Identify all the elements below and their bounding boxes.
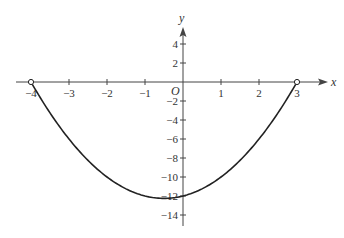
y-tick-label: −12 (161, 190, 178, 202)
x-tick-label: 1 (218, 87, 224, 99)
x-tick-label: 3 (294, 87, 300, 99)
x-tick-label: 2 (256, 87, 262, 99)
open-circle-icon (28, 79, 33, 84)
y-tick-label: −10 (161, 171, 179, 183)
y-tick-label: 4 (173, 38, 179, 50)
y-tick-label: −4 (166, 114, 178, 126)
x-tick-label: −2 (101, 87, 113, 99)
x-tick-label: −1 (139, 87, 151, 99)
y-tick-label: −8 (166, 152, 178, 164)
y-axis-label: y (178, 11, 185, 25)
y-tick-label: −6 (166, 133, 178, 145)
ticks: −4−3−2−112342−2−4−6−8−10−12−14 (25, 38, 300, 221)
origin-label: O (171, 84, 180, 98)
open-circle-icon (294, 79, 299, 84)
x-tick-label: −3 (63, 87, 75, 99)
y-tick-label: −14 (161, 209, 179, 221)
x-axis-label: x (330, 75, 337, 89)
y-tick-label: 2 (173, 57, 179, 69)
parabola-chart: −4−3−2−112342−2−4−6−8−10−12−14 x y O (0, 0, 344, 238)
